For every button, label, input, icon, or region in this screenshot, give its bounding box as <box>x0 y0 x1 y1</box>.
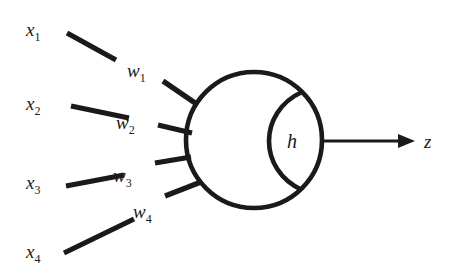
weight-stub-4 <box>165 182 201 196</box>
weight-label-w2: w2 <box>116 112 135 137</box>
weight-label-w1: w1 <box>127 60 146 85</box>
input-line-1 <box>67 33 116 60</box>
input-lines-group <box>64 33 134 253</box>
arrow-right-icon <box>398 134 415 148</box>
weight-stub-1 <box>163 81 198 105</box>
input-line-4 <box>64 219 134 253</box>
input-label-x1: x1 <box>25 19 40 44</box>
output-group <box>322 134 415 148</box>
input-label-x3: x3 <box>25 172 40 197</box>
neuron-diagram: x1 x2 x3 x4 w1 w2 w3 w4 h z <box>0 0 454 275</box>
input-label-x4: x4 <box>25 241 40 266</box>
input-label-x2: x2 <box>25 93 40 118</box>
activation-label-h: h <box>287 130 297 152</box>
weight-stubs-group <box>155 81 201 196</box>
activation-arc <box>269 92 302 190</box>
neuron-diagram-canvas: x1 x2 x3 x4 w1 w2 w3 w4 h z <box>0 0 454 275</box>
weight-stub-3 <box>155 157 191 163</box>
weight-label-w4: w4 <box>133 201 152 226</box>
output-label-z: z <box>423 131 432 152</box>
weight-label-w3: w3 <box>113 165 132 190</box>
